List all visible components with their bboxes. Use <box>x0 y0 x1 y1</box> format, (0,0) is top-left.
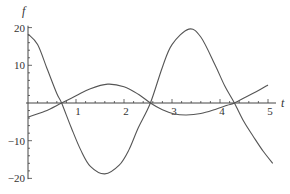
y-tick-label: 20 <box>14 22 26 34</box>
x-tick-label: 3 <box>171 105 177 117</box>
x-tick-label: 1 <box>75 105 81 117</box>
x-tick-label: 2 <box>123 105 129 117</box>
y-tick-label: −20 <box>8 172 26 184</box>
y-tick-label: −10 <box>8 135 26 147</box>
y-axis-label: f <box>22 4 27 18</box>
curves <box>28 29 273 174</box>
axes: 123452010−10−20 <box>8 22 276 185</box>
small-amplitude-curve <box>28 84 268 117</box>
x-axis-label: t <box>281 96 285 110</box>
y-tick-label: 10 <box>14 59 26 71</box>
x-tick-label: 5 <box>267 105 273 117</box>
chart-svg: 123452010−10−20 t f <box>0 0 290 194</box>
chart: 123452010−10−20 t f <box>0 0 290 194</box>
